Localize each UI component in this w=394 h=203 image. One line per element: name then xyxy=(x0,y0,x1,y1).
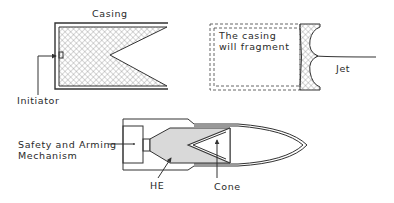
shaped-charge-panel: Casing Initiator xyxy=(17,8,168,106)
shaped-charge-diagram: Casing Initiator The casing will fragmen… xyxy=(0,0,394,203)
cone-label: Cone xyxy=(214,181,241,192)
safety-label-line2: Mechanism xyxy=(18,150,77,161)
casing-label: Casing xyxy=(92,8,128,19)
liner-slug xyxy=(300,24,320,90)
he-leader xyxy=(158,158,171,178)
explosive-charge xyxy=(59,27,167,86)
jet-label: Jet xyxy=(335,63,350,74)
jet-line xyxy=(316,56,376,57)
booster-neck xyxy=(143,139,150,151)
initiator-leader xyxy=(38,56,56,95)
fragment-label-line1: The casing xyxy=(218,30,276,41)
he-label: HE xyxy=(150,180,164,191)
jet-formation-panel: The casing will fragment Jet xyxy=(210,24,376,90)
initiator-label: Initiator xyxy=(17,95,60,106)
fragment-label-line2: will fragment xyxy=(219,41,289,52)
heat-round-panel: Safety and Arming Mechanism HE Cone xyxy=(18,119,307,192)
safety-label-line1: Safety and Arming xyxy=(18,139,117,150)
safety-leader-dot xyxy=(133,143,135,145)
